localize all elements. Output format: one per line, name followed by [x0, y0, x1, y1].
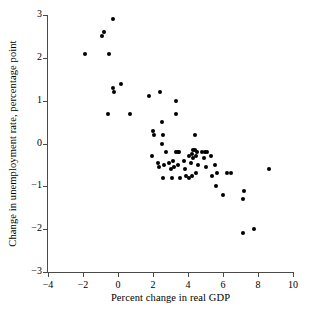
data-point: [213, 163, 217, 167]
data-point: [190, 174, 194, 178]
x-tick-label: −2: [78, 279, 89, 291]
x-tick-label: 8: [256, 279, 261, 291]
data-point: [194, 171, 198, 175]
x-tick-mark: [48, 273, 49, 277]
x-tick-label: 2: [151, 279, 156, 291]
x-tick-mark: [83, 273, 84, 277]
y-tick-label: −3: [31, 265, 42, 277]
data-point: [150, 154, 154, 158]
data-point: [162, 163, 166, 167]
data-point: [193, 133, 197, 137]
data-point: [242, 189, 246, 193]
plot-area: −3−2−10123 −4−20246810: [48, 15, 293, 272]
data-point: [147, 94, 151, 98]
data-point: [182, 159, 186, 163]
y-tick-mark: [43, 15, 47, 16]
data-point: [215, 171, 219, 175]
data-point: [176, 163, 180, 167]
y-tick-mark: [43, 272, 47, 273]
data-point: [214, 184, 218, 188]
data-point: [241, 197, 245, 201]
data-point: [157, 165, 161, 169]
y-tick-mark: [43, 186, 47, 187]
data-point: [119, 82, 123, 86]
x-tick-mark: [153, 273, 154, 277]
x-tick-label: 10: [288, 279, 298, 291]
data-point: [177, 150, 181, 154]
data-point: [241, 231, 245, 235]
data-point: [221, 193, 225, 197]
data-point: [189, 161, 193, 165]
data-point: [209, 154, 213, 158]
data-point: [174, 112, 178, 116]
x-tick-label: −4: [43, 279, 54, 291]
data-point: [170, 176, 174, 180]
data-point: [204, 165, 208, 169]
data-point: [161, 133, 165, 137]
y-axis-line: [47, 15, 48, 273]
data-point: [102, 30, 106, 34]
x-axis-line: [47, 272, 294, 273]
data-point: [158, 90, 162, 94]
data-point: [128, 112, 132, 116]
data-point: [191, 156, 195, 160]
data-point: [229, 171, 233, 175]
y-axis-title: Change in unemployment rate, percentage …: [4, 15, 22, 272]
y-tick-mark: [43, 58, 47, 59]
data-point: [100, 34, 104, 38]
x-tick-label: 0: [116, 279, 121, 291]
data-point: [83, 52, 87, 56]
x-tick-mark: [223, 273, 224, 277]
y-tick-label: 3: [37, 8, 42, 20]
y-tick-label: 2: [37, 51, 42, 63]
x-tick-label: 4: [186, 279, 191, 291]
x-axis-title: Percent change in real GDP: [48, 292, 293, 304]
data-point: [152, 133, 156, 137]
y-tick-label: 1: [37, 94, 42, 106]
data-point: [171, 159, 175, 163]
data-point: [164, 150, 168, 154]
x-tick-mark: [258, 273, 259, 277]
data-point: [160, 142, 164, 146]
data-point: [174, 99, 178, 103]
data-point: [252, 227, 256, 231]
data-point: [172, 165, 176, 169]
data-point: [183, 167, 187, 171]
data-point: [196, 163, 200, 167]
x-tick-mark: [118, 273, 119, 277]
data-point: [107, 52, 111, 56]
y-tick-label: −1: [31, 179, 42, 191]
y-tick-mark: [43, 144, 47, 145]
data-point: [111, 17, 115, 21]
data-point: [205, 150, 209, 154]
data-point: [106, 112, 110, 116]
y-tick-label: −2: [31, 222, 42, 234]
data-point: [202, 156, 206, 160]
data-point: [267, 167, 271, 171]
data-point: [160, 120, 164, 124]
x-tick-mark: [188, 273, 189, 277]
data-point: [161, 176, 165, 180]
y-tick-mark: [43, 229, 47, 230]
x-tick-mark: [293, 273, 294, 277]
scatter-plot-figure: Change in unemployment rate, percentage …: [0, 0, 312, 317]
data-point: [112, 90, 116, 94]
data-point: [178, 176, 182, 180]
y-tick-mark: [43, 101, 47, 102]
x-tick-label: 6: [221, 279, 226, 291]
data-point: [225, 171, 229, 175]
y-tick-label: 0: [37, 137, 42, 149]
data-point: [210, 174, 214, 178]
